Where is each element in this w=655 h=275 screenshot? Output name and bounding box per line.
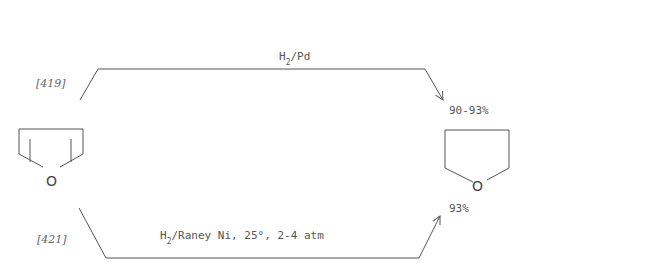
reference-label-top: [419]	[36, 77, 66, 90]
tetrahydrofuran-structure: O	[445, 130, 509, 194]
arrow-top-route	[80, 69, 443, 100]
reaction-scheme: [419] H2/Pd 90-93% O O [421] H2/Raney Ni…	[0, 0, 655, 275]
oxygen-atom-product: O	[472, 178, 483, 194]
reference-label-bottom: [421]	[37, 233, 67, 246]
reagent-label-top: H2/Pd	[279, 50, 310, 67]
reagent-label-bottom: H2/Raney Ni, 25°, 2-4 atm	[160, 229, 324, 246]
furan-structure: O	[19, 129, 83, 189]
yield-label-top: 90-93%	[449, 104, 489, 117]
oxygen-atom-reactant: O	[46, 173, 57, 189]
yield-label-bottom: 93%	[449, 202, 469, 215]
